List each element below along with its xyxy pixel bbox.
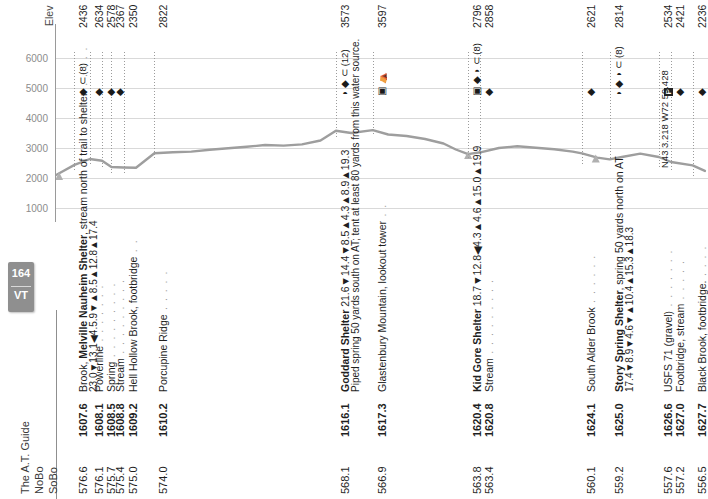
table-cell-subtext: Piped spring 50 yards south on AT; tent … — [351, 39, 361, 392]
table-cell-description: Stream . . . . . . . . . — [115, 279, 126, 392]
table-cell-sobo: 559.2 — [614, 466, 625, 494]
table-cell-sobo: 557.2 — [675, 466, 686, 494]
col-header-sobo: SoBo — [48, 467, 59, 494]
leader-line — [111, 52, 112, 173]
table-cell-sobo: 566.9 — [377, 466, 388, 494]
badge-page-number: 164 — [8, 267, 34, 279]
table-cell-description: Kid Gore Shelter 18.7▼12.8◀4.3▲4.6▲15.0▲… — [472, 146, 483, 392]
elevation-value: 2367 — [115, 5, 126, 28]
col-header-elev: Elev — [44, 6, 55, 26]
elevation-value: 2436 — [78, 5, 89, 28]
amenity-icons: ◆ — [484, 88, 494, 96]
ytick-2000: 2000 — [14, 173, 48, 184]
table-cell-nobo: 1607.6 — [78, 403, 89, 437]
leader-line — [582, 52, 583, 165]
table-cell-nobo: 1609.2 — [128, 403, 139, 437]
ytick-4000: 4000 — [14, 113, 48, 124]
col-header-nobo: NoBo — [34, 466, 45, 494]
leader-line — [124, 52, 125, 174]
table-cell-sobo: 574.0 — [158, 466, 169, 494]
elevation-value: 3597 — [377, 5, 388, 28]
leader-line — [671, 52, 672, 171]
table-cell-nobo: 1627.0 — [675, 403, 686, 437]
table-cell-nobo: 1616.1 — [340, 403, 351, 437]
table-cell-description: Stream . . . . . . . . . — [484, 279, 495, 392]
leader-line — [74, 52, 75, 171]
elevation-value: 2421 — [675, 5, 686, 28]
leader-line — [336, 52, 337, 137]
table-cell-nobo: 1617.3 — [377, 403, 388, 437]
table-cell-description: Porcupine Ridge . . . . . — [158, 270, 169, 392]
table-cell-nobo: 1608.8 — [115, 403, 126, 437]
table-cell-sobo: 575.4 — [115, 466, 126, 494]
table-cell-description: Hell Hollow Brook, footbridge . . — [128, 239, 139, 392]
amenity-icons: ▣ ◆ ◗ ⊂ (8) — [472, 43, 482, 96]
ytick-1000: 1000 — [14, 203, 48, 214]
leader-line — [610, 52, 611, 160]
table-cell-nobo: 1620.4 — [472, 403, 483, 437]
ytick-6000: 6000 — [14, 53, 48, 64]
amenity-icons: ◆ — [115, 88, 125, 96]
amenity-icons: ◗ ◆ ⊂ (12) — [340, 49, 350, 96]
table-cell-sobo: 575.0 — [128, 466, 139, 494]
table-cell-sobo: 568.1 — [340, 466, 351, 494]
table-cell-sobo: 576.6 — [78, 466, 89, 494]
elevation-value: 2796 — [472, 5, 483, 28]
amenity-icons: ◗ ◆ ◗ ⊂ (8) — [614, 46, 624, 96]
elevation-value: 2621 — [586, 5, 597, 28]
coordinates-label: N43 3.218 W72 59.428 — [660, 70, 670, 168]
table-cell-description: Glastenbury Mountain, lookout tower . . — [377, 203, 388, 392]
elevation-value: 2634 — [94, 5, 105, 28]
elevation-value: 2814 — [614, 5, 625, 28]
table-cell-description: USFS 71 (gravel) . . . . . . . — [663, 249, 674, 392]
table-cell-description: Story Spring Shelter, spring 50 yards no… — [614, 156, 625, 392]
at-guide-page: 6000 5000 4000 3000 2000 1000 2436263425… — [0, 0, 708, 499]
elevation-value: 2534 — [663, 5, 674, 28]
elevation-value: 2350 — [128, 5, 139, 28]
table-cell-description: Black Brook, footbridge. . . . . — [697, 245, 708, 392]
badge-divider — [11, 286, 31, 287]
table-cell-description: Footbridge, stream . . . . . — [675, 260, 686, 392]
badge-state: VT — [8, 289, 34, 301]
amenity-icons: ◆ — [675, 88, 685, 96]
leader-line — [90, 52, 91, 165]
amenity-icons: ◆ — [697, 88, 707, 96]
amenity-icons: ◆ — [586, 88, 596, 96]
leader-line — [468, 52, 469, 160]
ytick-3000: 3000 — [14, 143, 48, 154]
elevation-value: 3573 — [340, 5, 351, 28]
table-cell-description: South Alder Brook . . . . . . — [586, 254, 597, 392]
table-cell-nobo: 1627.7 — [697, 403, 708, 437]
table-cell-nobo: 1608.1 — [94, 403, 105, 437]
elevation-value: 2858 — [484, 5, 495, 28]
leader-line — [102, 52, 103, 167]
table-cell-sobo: 560.1 — [586, 466, 597, 494]
table-cell-sobo: 576.1 — [94, 466, 105, 494]
leader-line — [154, 52, 155, 159]
table-cell-sobo: 563.8 — [472, 466, 483, 494]
table-cell-subtext: 17.4▼8.9▼4.6▼▲10.4▲15.3▲18.3 — [625, 227, 635, 392]
elevation-value: 2236 — [697, 5, 708, 28]
table-cell-sobo: 563.4 — [484, 466, 495, 494]
table-cell-sobo: 557.6 — [663, 466, 674, 494]
col-header-guide: The A.T. Guide — [20, 421, 31, 494]
elevation-value: 2822 — [158, 5, 169, 28]
leader-line — [373, 52, 374, 136]
amenity-icons: ◆ — [94, 88, 104, 96]
table-cell-nobo: 1620.8 — [484, 403, 495, 437]
table-cell-nobo: 1610.2 — [158, 403, 169, 437]
table-cell-description: Powerline . . . . . . . — [94, 284, 105, 392]
table-cell-nobo: 1625.0 — [614, 403, 625, 437]
table-cell-description: Goddard Shelter 21.6▼14.4▼8.5▲4.3▲8.9▲19… — [340, 150, 351, 392]
amenity-icons: ▣ ⛺ — [377, 72, 387, 96]
table-cell-sobo: 556.5 — [697, 466, 708, 494]
table-cell-nobo: 1626.6 — [663, 403, 674, 437]
table-cell-nobo: 1624.1 — [586, 403, 597, 437]
leader-line — [693, 52, 694, 177]
page-badge: 164 VT — [8, 262, 34, 312]
ytick-5000: 5000 — [14, 83, 48, 94]
